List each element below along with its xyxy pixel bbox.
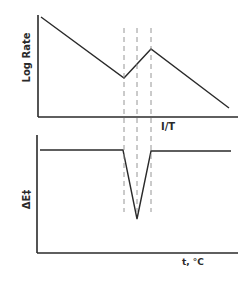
top-y-axis-label: Log Rate — [21, 33, 32, 83]
bottom-y-axis-label: ΔE‡ — [21, 185, 32, 215]
top-x-axis-label: I/T — [161, 121, 175, 132]
bottom-plot — [37, 135, 238, 253]
figure: Log Rate I/T ΔE‡ t, °C — [0, 0, 251, 281]
log-rate-curve — [41, 17, 229, 108]
bottom-x-axis-label: t, °C — [182, 257, 204, 267]
transition-markers — [124, 28, 151, 212]
activation-energy-curve — [40, 150, 231, 219]
top-plot — [38, 15, 238, 117]
diagram-canvas — [0, 0, 251, 281]
